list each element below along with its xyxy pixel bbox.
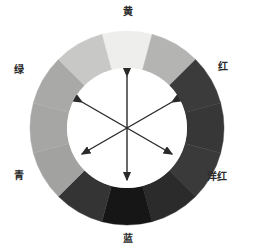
color-wheel-svg xyxy=(0,0,255,252)
wheel-label-cyan: 青 xyxy=(14,170,24,181)
color-wheel-figure: 黄 红 洋红 蓝 青 绿 xyxy=(0,0,255,252)
wheel-label-yellow: 黄 xyxy=(0,6,255,17)
wheel-label-blue: 蓝 xyxy=(0,233,255,244)
wheel-label-green: 绿 xyxy=(14,64,24,75)
wheel-label-magenta: 洋红 xyxy=(207,171,227,182)
wheel-label-red: 红 xyxy=(218,61,228,72)
